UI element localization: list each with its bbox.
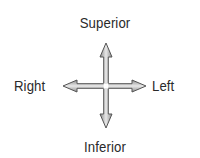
directional-terms-diagram: Superior Right Left Inferior (0, 0, 200, 158)
label-superior: Superior (69, 14, 141, 32)
arrow-intersection (104, 83, 109, 89)
label-right: Right (14, 77, 45, 95)
label-left: Left (152, 77, 174, 95)
label-inferior: Inferior (69, 138, 141, 156)
